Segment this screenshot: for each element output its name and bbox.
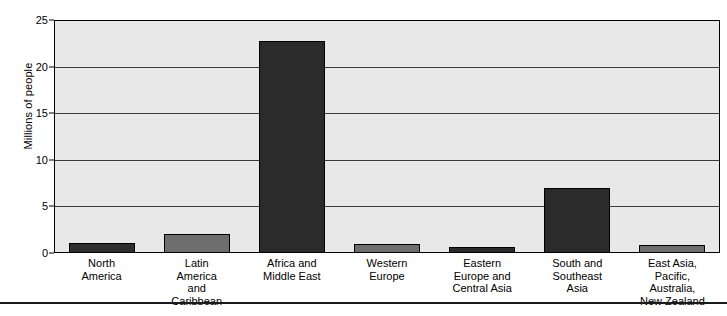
x-label-line: America: [54, 270, 149, 283]
x-category-label: NorthAmerica: [54, 257, 149, 282]
bar[interactable]: [69, 243, 135, 253]
bar-slot: [54, 20, 149, 253]
x-label-line: Western: [339, 257, 434, 270]
y-tick-label-5: 5: [18, 200, 48, 212]
bar-slot: [149, 20, 244, 253]
bar[interactable]: [164, 234, 230, 253]
bar[interactable]: [354, 244, 420, 253]
bar[interactable]: [544, 188, 610, 253]
x-label-line: and: [149, 282, 244, 295]
bars-layer: [54, 20, 720, 253]
bar-chart-figure: Millions of people 0510152025 NorthAmeri…: [0, 0, 727, 316]
x-label-line: Australia,: [625, 282, 720, 295]
x-label-line: Asia: [530, 282, 625, 295]
x-label-line: Europe: [339, 270, 434, 283]
y-tick-label-10: 10: [18, 154, 48, 166]
x-label-line: Latin: [149, 257, 244, 270]
bar-slot: [625, 20, 720, 253]
x-label-line: Middle East: [244, 270, 339, 283]
x-category-label: Africa andMiddle East: [244, 257, 339, 282]
x-label-line: North: [54, 257, 149, 270]
bottom-divider: [0, 302, 727, 304]
y-tick-label-0: 0: [18, 247, 48, 259]
x-axis-category-labels: NorthAmericaLatinAmericaandCaribbeanAfri…: [54, 257, 720, 307]
x-label-line: Eastern: [435, 257, 530, 270]
bar[interactable]: [259, 41, 325, 253]
x-label-line: Pacific,: [625, 270, 720, 283]
bar-slot: [339, 20, 434, 253]
y-tick-label-15: 15: [18, 107, 48, 119]
x-category-label: EasternEurope andCentral Asia: [435, 257, 530, 295]
x-label-line: South and: [530, 257, 625, 270]
x-label-line: East Asia,: [625, 257, 720, 270]
bar[interactable]: [639, 245, 705, 253]
x-category-label: WesternEurope: [339, 257, 434, 282]
bar-slot: [530, 20, 625, 253]
y-tick-label-20: 20: [18, 61, 48, 73]
bar-slot: [435, 20, 530, 253]
x-label-line: America: [149, 270, 244, 283]
x-label-line: Africa and: [244, 257, 339, 270]
x-label-line: Southeast: [530, 270, 625, 283]
x-category-label: East Asia,Pacific,Australia,New Zealand: [625, 257, 720, 307]
bar[interactable]: [449, 247, 515, 253]
bar-slot: [244, 20, 339, 253]
x-label-line: Central Asia: [435, 282, 530, 295]
x-category-label: LatinAmericaandCaribbean: [149, 257, 244, 307]
y-tick-label-25: 25: [18, 14, 48, 26]
x-label-line: Europe and: [435, 270, 530, 283]
x-category-label: South andSoutheastAsia: [530, 257, 625, 295]
